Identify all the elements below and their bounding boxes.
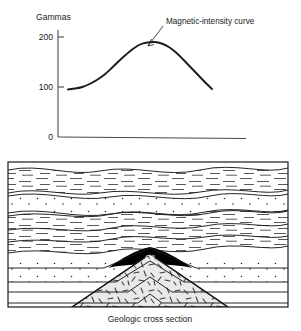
y-tick-label-200: 200 [39,32,54,42]
figure-caption: Geologic cross section [108,314,193,324]
y-axis-title: Gammas [36,12,71,22]
oil-label: Oil [145,253,155,262]
y-tick-label-0: 0 [48,132,53,142]
figure-root: Gammas 200 100 0 Magnetic-intensity curv… [0,0,301,331]
y-tick-label-100: 100 [39,82,54,92]
geologic-cross-section: Oil Geologic cross section [8,160,288,324]
curve-annotation-label: Magnetic-intensity curve [166,17,255,26]
